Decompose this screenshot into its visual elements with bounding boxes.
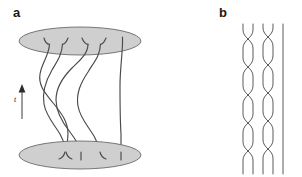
time-axis-label: t	[14, 95, 17, 104]
strand-4	[77, 44, 100, 152]
strand-5	[120, 44, 123, 152]
panel-b: b	[219, 5, 283, 174]
panel-a-label: a	[13, 5, 21, 20]
braid-figure: a t b	[0, 0, 302, 177]
strand-2	[43, 44, 66, 152]
time-arrow	[19, 84, 26, 119]
panel-b-label: b	[219, 5, 227, 20]
panel-a: a t	[13, 5, 141, 169]
time-arrow-head	[19, 84, 26, 93]
strand-b-3	[263, 24, 273, 174]
bottom-disc	[19, 141, 141, 169]
strand-b-4	[263, 24, 273, 174]
